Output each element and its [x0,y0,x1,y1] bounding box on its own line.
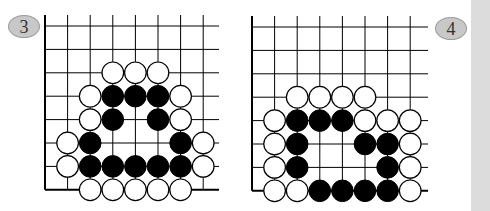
white-stone [102,179,124,201]
black-stone [147,156,169,178]
white-stone [264,133,286,155]
white-stone [57,156,79,178]
black-stone [377,180,399,202]
white-stone [286,86,308,108]
white-stone [399,157,421,179]
black-stone [170,132,192,154]
black-stone [332,110,354,132]
white-stone [192,132,214,154]
black-stone [79,156,101,178]
problem-number: 3 [20,18,29,36]
white-stone [399,133,421,155]
go-diagrams [0,0,490,211]
black-stone [147,85,169,107]
problem-number-badge: 4 [435,17,467,40]
white-stone [264,110,286,132]
white-stone [354,110,376,132]
black-stone [170,156,192,178]
problem-number: 4 [447,20,456,38]
white-stone [286,180,308,202]
black-stone [377,157,399,179]
go-board-diagram-4 [252,16,428,202]
black-stone [354,133,376,155]
white-stone [79,85,101,107]
white-stone [170,179,192,201]
white-stone [192,156,214,178]
white-stone [170,85,192,107]
white-stone [125,179,147,201]
black-stone [125,85,147,107]
white-stone [102,62,124,84]
black-stone [102,156,124,178]
black-stone [102,109,124,131]
white-stone [264,180,286,202]
black-stone [286,133,308,155]
black-stone [309,180,331,202]
white-stone [147,62,169,84]
black-stone [147,109,169,131]
white-stone [354,86,376,108]
white-stone [147,179,169,201]
problem-number-badge: 3 [8,15,40,38]
go-board-diagram-3 [45,15,219,201]
black-stone [377,133,399,155]
white-stone [125,62,147,84]
black-stone [286,110,308,132]
black-stone [102,85,124,107]
white-stone [399,110,421,132]
white-stone [332,86,354,108]
white-stone [57,132,79,154]
white-stone [170,109,192,131]
black-stone [309,110,331,132]
black-stone [286,157,308,179]
black-stone [332,180,354,202]
white-stone [264,157,286,179]
black-stone [125,156,147,178]
white-stone [79,109,101,131]
white-stone [377,110,399,132]
black-stone [354,180,376,202]
white-stone [79,179,101,201]
white-stone [309,86,331,108]
black-stone [79,132,101,154]
white-stone [399,180,421,202]
